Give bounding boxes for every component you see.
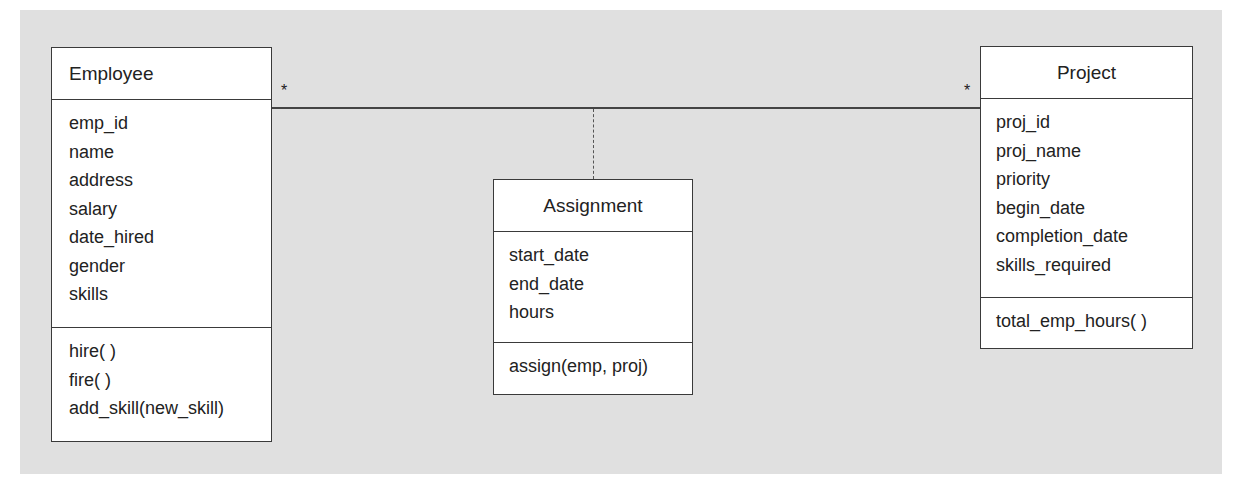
class-assignment[interactable]: Assignment start_date end_date hours ass… — [493, 179, 693, 395]
class-header: Assignment — [494, 180, 692, 232]
attribute: date_hired — [69, 223, 271, 252]
attribute: skills_required — [996, 251, 1192, 280]
operation: total_emp_hours( ) — [996, 307, 1192, 336]
attribute: name — [69, 138, 271, 167]
operations-section: hire( ) fire( ) add_skill(new_skill) — [52, 328, 271, 423]
multiplicity-right: * — [964, 82, 970, 100]
attributes-section: proj_id proj_name priority begin_date co… — [981, 99, 1192, 298]
association-class-dashed-link — [593, 109, 594, 179]
attributes-section: start_date end_date hours — [494, 232, 692, 343]
attribute: hours — [509, 298, 692, 327]
attribute: priority — [996, 165, 1192, 194]
class-header: Project — [981, 47, 1192, 99]
operation: add_skill(new_skill) — [69, 394, 271, 423]
class-name: Assignment — [543, 195, 642, 217]
multiplicity-left: * — [281, 82, 287, 100]
class-name: Project — [1057, 62, 1116, 84]
class-employee[interactable]: Employee emp_id name address salary date… — [51, 47, 272, 442]
operation: hire( ) — [69, 337, 271, 366]
operation: assign(emp, proj) — [509, 352, 692, 381]
attributes-section: emp_id name address salary date_hired ge… — [52, 100, 271, 328]
attribute: proj_id — [996, 108, 1192, 137]
attribute: skills — [69, 280, 271, 309]
class-name: Employee — [69, 63, 154, 85]
attribute: end_date — [509, 270, 692, 299]
operations-section: total_emp_hours( ) — [981, 298, 1192, 336]
attribute: completion_date — [996, 222, 1192, 251]
association-line — [271, 107, 980, 109]
class-project[interactable]: Project proj_id proj_name priority begin… — [980, 46, 1193, 349]
attribute: salary — [69, 195, 271, 224]
operation: fire( ) — [69, 366, 271, 395]
attribute: proj_name — [996, 137, 1192, 166]
attribute: start_date — [509, 241, 692, 270]
attribute: gender — [69, 252, 271, 281]
attribute: address — [69, 166, 271, 195]
operations-section: assign(emp, proj) — [494, 343, 692, 381]
attribute: begin_date — [996, 194, 1192, 223]
class-header: Employee — [52, 48, 271, 100]
attribute: emp_id — [69, 109, 271, 138]
